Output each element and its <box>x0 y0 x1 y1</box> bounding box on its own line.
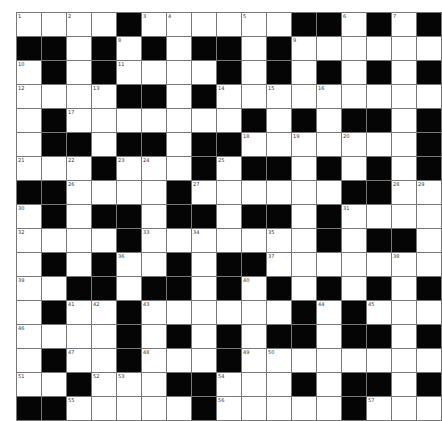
answer-cell[interactable]: 14 <box>217 85 241 108</box>
answer-cell[interactable] <box>392 157 416 180</box>
answer-cell[interactable] <box>392 205 416 228</box>
answer-cell[interactable] <box>242 181 266 204</box>
answer-cell[interactable] <box>417 229 441 252</box>
answer-cell[interactable]: 36 <box>117 253 141 276</box>
answer-cell[interactable] <box>292 85 316 108</box>
answer-cell[interactable] <box>317 349 341 372</box>
answer-cell[interactable]: 23 <box>117 157 141 180</box>
answer-cell[interactable]: 50 <box>267 349 291 372</box>
answer-cell[interactable]: 24 <box>142 157 166 180</box>
answer-cell[interactable] <box>417 397 441 420</box>
answer-cell[interactable] <box>167 349 191 372</box>
answer-cell[interactable] <box>92 181 116 204</box>
answer-cell[interactable] <box>317 133 341 156</box>
answer-cell[interactable] <box>17 349 41 372</box>
answer-cell[interactable] <box>42 157 66 180</box>
answer-cell[interactable] <box>42 13 66 36</box>
answer-cell[interactable] <box>317 397 341 420</box>
answer-cell[interactable] <box>342 85 366 108</box>
answer-cell[interactable] <box>292 277 316 300</box>
answer-cell[interactable]: 19 <box>292 133 316 156</box>
answer-cell[interactable]: 26 <box>67 181 91 204</box>
answer-cell[interactable] <box>292 253 316 276</box>
answer-cell[interactable]: 9 <box>292 37 316 60</box>
answer-cell[interactable] <box>392 133 416 156</box>
answer-cell[interactable] <box>67 253 91 276</box>
answer-cell[interactable] <box>367 133 391 156</box>
answer-cell[interactable]: 42 <box>92 301 116 324</box>
answer-cell[interactable] <box>267 301 291 324</box>
answer-cell[interactable] <box>392 277 416 300</box>
answer-cell[interactable] <box>342 61 366 84</box>
answer-cell[interactable] <box>192 277 216 300</box>
answer-cell[interactable] <box>392 349 416 372</box>
answer-cell[interactable]: 22 <box>67 157 91 180</box>
answer-cell[interactable]: 55 <box>67 397 91 420</box>
answer-cell[interactable] <box>192 109 216 132</box>
answer-cell[interactable] <box>167 37 191 60</box>
answer-cell[interactable]: 33 <box>142 229 166 252</box>
answer-cell[interactable]: 17 <box>67 109 91 132</box>
answer-cell[interactable] <box>242 85 266 108</box>
answer-cell[interactable] <box>17 133 41 156</box>
answer-cell[interactable] <box>267 133 291 156</box>
answer-cell[interactable] <box>217 229 241 252</box>
answer-cell[interactable] <box>317 325 341 348</box>
answer-cell[interactable]: 10 <box>17 61 41 84</box>
answer-cell[interactable] <box>67 205 91 228</box>
answer-cell[interactable]: 1 <box>17 13 41 36</box>
answer-cell[interactable] <box>217 13 241 36</box>
answer-cell[interactable] <box>92 229 116 252</box>
answer-cell[interactable] <box>217 109 241 132</box>
answer-cell[interactable] <box>392 373 416 396</box>
answer-cell[interactable] <box>242 301 266 324</box>
answer-cell[interactable] <box>317 253 341 276</box>
answer-cell[interactable] <box>92 109 116 132</box>
answer-cell[interactable]: 47 <box>67 349 91 372</box>
answer-cell[interactable] <box>267 397 291 420</box>
answer-cell[interactable] <box>192 13 216 36</box>
answer-cell[interactable] <box>392 37 416 60</box>
answer-cell[interactable] <box>142 373 166 396</box>
answer-cell[interactable] <box>417 85 441 108</box>
answer-cell[interactable] <box>342 253 366 276</box>
answer-cell[interactable] <box>292 61 316 84</box>
answer-cell[interactable] <box>142 253 166 276</box>
answer-cell[interactable]: 16 <box>317 85 341 108</box>
answer-cell[interactable] <box>167 85 191 108</box>
answer-cell[interactable] <box>117 109 141 132</box>
answer-cell[interactable] <box>342 37 366 60</box>
answer-cell[interactable] <box>142 109 166 132</box>
answer-cell[interactable] <box>217 205 241 228</box>
answer-cell[interactable] <box>292 181 316 204</box>
answer-cell[interactable]: 45 <box>367 301 391 324</box>
answer-cell[interactable] <box>292 229 316 252</box>
answer-cell[interactable]: 57 <box>367 397 391 420</box>
answer-cell[interactable] <box>367 253 391 276</box>
answer-cell[interactable]: 48 <box>142 349 166 372</box>
answer-cell[interactable]: 11 <box>117 61 141 84</box>
answer-cell[interactable] <box>367 205 391 228</box>
answer-cell[interactable]: 35 <box>267 229 291 252</box>
answer-cell[interactable] <box>417 37 441 60</box>
answer-cell[interactable] <box>142 181 166 204</box>
answer-cell[interactable] <box>167 157 191 180</box>
answer-cell[interactable]: 21 <box>17 157 41 180</box>
answer-cell[interactable] <box>392 85 416 108</box>
answer-cell[interactable]: 56 <box>217 397 241 420</box>
answer-cell[interactable]: 31 <box>342 205 366 228</box>
answer-cell[interactable]: 38 <box>392 253 416 276</box>
answer-cell[interactable] <box>392 397 416 420</box>
answer-cell[interactable] <box>192 325 216 348</box>
answer-cell[interactable] <box>167 229 191 252</box>
answer-cell[interactable] <box>42 277 66 300</box>
answer-cell[interactable]: 25 <box>217 157 241 180</box>
answer-cell[interactable]: 3 <box>142 13 166 36</box>
answer-cell[interactable] <box>17 301 41 324</box>
answer-cell[interactable]: 28 <box>392 181 416 204</box>
answer-cell[interactable] <box>92 349 116 372</box>
answer-cell[interactable] <box>92 133 116 156</box>
answer-cell[interactable] <box>342 157 366 180</box>
answer-cell[interactable]: 37 <box>267 253 291 276</box>
answer-cell[interactable] <box>117 397 141 420</box>
